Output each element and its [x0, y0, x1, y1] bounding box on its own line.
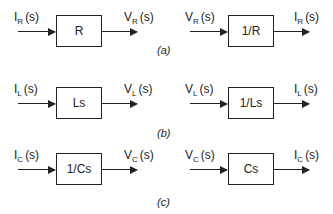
input-label-a-right: VR(s)	[185, 10, 215, 24]
output-arrow-c-left	[102, 169, 137, 170]
caption-c: (c)	[157, 196, 170, 208]
input-arrow-b-right	[190, 103, 227, 104]
input-label-a-left: IR(s)	[14, 10, 39, 24]
caption-a: (a)	[157, 44, 170, 56]
input-label-b-left: IL(s)	[14, 82, 38, 96]
output-label-b-right: IL(s)	[294, 82, 318, 96]
input-label-c-right: VC(s)	[185, 148, 215, 162]
block-r: R	[56, 15, 102, 47]
output-arrow-b-right	[274, 103, 309, 104]
input-label-c-left: IC(s)	[14, 148, 39, 162]
output-label-a-right: IR(s)	[294, 10, 319, 24]
output-arrow-b-left	[102, 103, 137, 104]
output-label-c-right: IC(s)	[294, 148, 319, 162]
caption-b: (b)	[157, 127, 170, 139]
block-ls: Ls	[56, 87, 102, 119]
block-1-over-r: 1/R	[228, 15, 274, 47]
input-label-b-right: VL(s)	[185, 82, 213, 96]
block-1-over-ls: 1/Ls	[228, 87, 274, 119]
output-label-a-left: VR(s)	[124, 10, 154, 24]
input-arrow-c-left	[18, 169, 55, 170]
block-cs: Cs	[228, 153, 274, 185]
input-arrow-a-right	[190, 31, 227, 32]
input-arrow-c-right	[190, 169, 227, 170]
input-arrow-a-left	[18, 31, 55, 32]
output-label-c-left: VC(s)	[124, 148, 154, 162]
output-arrow-c-right	[274, 169, 309, 170]
output-label-b-left: VL(s)	[124, 82, 152, 96]
input-arrow-b-left	[18, 103, 55, 104]
output-arrow-a-left	[102, 31, 137, 32]
block-1-over-cs: 1/Cs	[56, 153, 102, 185]
output-arrow-a-right	[274, 31, 309, 32]
